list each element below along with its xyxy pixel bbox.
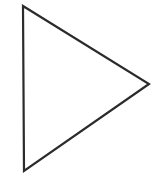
diagram-canvas — [0, 0, 156, 183]
triangle-shape — [23, 6, 149, 171]
